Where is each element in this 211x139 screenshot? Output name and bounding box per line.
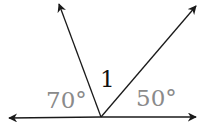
baseline-line xyxy=(9,117,101,118)
middle-angle-label: 1 xyxy=(100,66,115,92)
right-angle-label: 50° xyxy=(136,85,177,111)
angle-diagram: 70° 1 50° xyxy=(0,0,211,139)
left-angle-label: 70° xyxy=(46,87,87,113)
